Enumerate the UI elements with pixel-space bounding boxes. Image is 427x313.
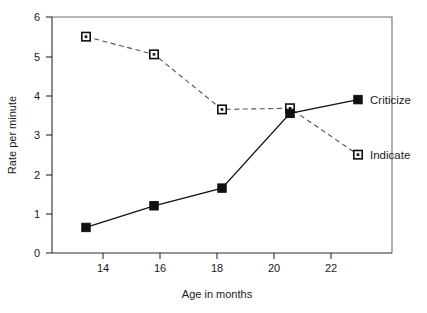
data-point-marker (354, 150, 362, 158)
series-markers-criticize (82, 95, 362, 231)
plot-frame (52, 17, 392, 253)
data-point-marker (218, 184, 226, 192)
data-point-marker (150, 202, 158, 210)
y-tick-label-2: 2 (34, 169, 40, 181)
y-tick-label-6: 6 (34, 11, 40, 23)
series-label-indicate: Indicate (370, 149, 410, 161)
series-markers-indicate (82, 32, 362, 158)
y-tick-label-0: 0 (34, 247, 40, 259)
data-point-marker (82, 223, 90, 231)
y-tick-label-1: 1 (34, 208, 40, 220)
series-line-indicate (86, 37, 358, 155)
series-line-criticize (86, 100, 358, 228)
data-point-marker (354, 95, 362, 103)
x-axis-title: Age in months (182, 288, 253, 300)
x-tick-label-14: 14 (97, 262, 109, 274)
y-tick-label-4: 4 (34, 90, 40, 102)
x-tick-label-20: 20 (268, 262, 280, 274)
data-point-marker (150, 50, 158, 58)
data-point-marker (218, 105, 226, 113)
chart-figure: 0 1 2 3 4 5 6 14 16 18 20 22 Age in mont… (0, 0, 427, 313)
data-point-marker (286, 109, 294, 117)
y-tick-label-5: 5 (34, 51, 40, 63)
x-tick-label-22: 22 (325, 262, 337, 274)
y-axis-title: Rate per minute (6, 96, 18, 174)
series-label-criticize: Criticize (370, 94, 411, 106)
y-tick-label-3: 3 (34, 129, 40, 141)
x-tick-label-18: 18 (211, 262, 223, 274)
x-tick-label-16: 16 (154, 262, 166, 274)
line-chart: 0 1 2 3 4 5 6 14 16 18 20 22 Age in mont… (0, 0, 427, 313)
data-point-marker (82, 32, 90, 40)
